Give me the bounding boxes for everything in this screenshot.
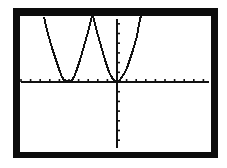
function-curve (44, 16, 141, 82)
graph-plot (0, 0, 227, 168)
